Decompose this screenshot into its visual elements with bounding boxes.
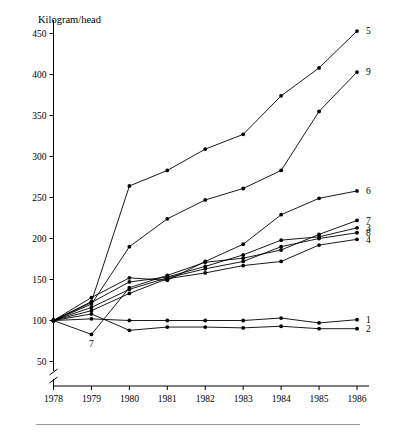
data-point xyxy=(241,326,245,330)
data-point xyxy=(317,327,321,331)
data-point xyxy=(90,317,94,321)
series-line-5 xyxy=(54,31,358,320)
data-point xyxy=(279,169,283,173)
x-axis-tick-label: 1979 xyxy=(82,394,101,404)
data-point xyxy=(127,328,131,332)
x-axis-tick-label: 1984 xyxy=(272,394,291,404)
annotation-label: 7 xyxy=(89,339,94,349)
data-point xyxy=(165,319,169,323)
data-point xyxy=(203,325,207,329)
data-point xyxy=(90,305,94,309)
data-point xyxy=(203,260,207,264)
data-point xyxy=(165,277,169,281)
y-axis-tick-label: 400 xyxy=(32,70,47,80)
data-point xyxy=(241,256,245,260)
data-point xyxy=(317,243,321,247)
data-point xyxy=(90,301,94,305)
data-point xyxy=(90,309,94,313)
data-point xyxy=(203,319,207,323)
y-axis-tick-label: 150 xyxy=(32,275,47,285)
series-label-2: 2 xyxy=(366,324,371,334)
data-point xyxy=(279,213,283,217)
data-point xyxy=(203,271,207,275)
data-point xyxy=(317,66,321,70)
x-axis-tick-label: 1981 xyxy=(158,394,177,404)
data-point xyxy=(355,318,359,322)
data-point xyxy=(165,169,169,173)
data-point xyxy=(127,280,131,284)
data-point xyxy=(355,226,359,230)
data-point xyxy=(355,231,359,235)
series-line-9 xyxy=(54,72,358,320)
x-axis-tick-label: 1983 xyxy=(234,394,253,404)
x-axis-tick-label: 1980 xyxy=(120,394,139,404)
x-axis-tick-label: 1985 xyxy=(310,394,329,404)
data-point xyxy=(241,132,245,136)
data-point xyxy=(90,333,94,337)
footer-divider xyxy=(36,424,360,425)
data-point xyxy=(127,276,131,280)
data-point xyxy=(203,267,207,271)
data-point xyxy=(317,237,321,241)
y-axis-tick-label: 350 xyxy=(32,111,47,121)
y-axis-tick-label: 450 xyxy=(32,29,47,39)
data-point xyxy=(279,324,283,328)
y-axis-tick-label: 100 xyxy=(32,316,47,326)
data-point xyxy=(241,260,245,264)
data-point xyxy=(355,237,359,241)
data-point xyxy=(127,245,131,249)
data-point xyxy=(241,242,245,246)
data-point xyxy=(90,296,94,300)
y-axis-tick-label: 300 xyxy=(32,152,47,162)
y-axis-tick-label: 50 xyxy=(37,357,47,367)
data-point xyxy=(241,253,245,257)
series-label-6: 6 xyxy=(366,186,371,196)
data-point xyxy=(279,238,283,242)
series-label-4: 4 xyxy=(366,235,371,245)
data-point xyxy=(317,196,321,200)
data-point xyxy=(203,198,207,202)
data-point xyxy=(203,147,207,151)
data-point xyxy=(127,292,131,296)
series-label-5: 5 xyxy=(366,26,371,36)
data-point xyxy=(355,29,359,33)
data-point xyxy=(165,217,169,221)
data-point xyxy=(279,316,283,320)
data-point xyxy=(317,321,321,325)
data-point xyxy=(241,319,245,323)
line-chart-plot: 5010015020025030035040045019781979198019… xyxy=(0,0,396,432)
data-point xyxy=(279,260,283,264)
data-point xyxy=(355,189,359,193)
series-label-9: 9 xyxy=(366,67,371,77)
x-axis-tick-label: 1982 xyxy=(196,394,215,404)
data-point xyxy=(317,110,321,114)
data-point xyxy=(279,248,283,252)
x-axis-tick-label: 1978 xyxy=(44,394,63,404)
data-point xyxy=(90,312,94,316)
data-point xyxy=(165,325,169,329)
data-point xyxy=(127,184,131,188)
data-point xyxy=(241,187,245,191)
y-axis-tick-label: 200 xyxy=(32,234,47,244)
y-axis-tick-label: 250 xyxy=(32,193,47,203)
data-point xyxy=(355,219,359,223)
x-axis-tick-label: 1986 xyxy=(348,394,367,404)
data-point xyxy=(241,264,245,268)
data-point xyxy=(52,319,56,323)
data-point xyxy=(279,245,283,249)
series-line-6 xyxy=(54,191,358,321)
data-point xyxy=(355,70,359,74)
chart-container: Kilogram/head 50100150200250300350400450… xyxy=(0,0,396,432)
data-point xyxy=(279,94,283,98)
data-point xyxy=(127,319,131,323)
data-point xyxy=(127,287,131,291)
data-point xyxy=(355,327,359,331)
